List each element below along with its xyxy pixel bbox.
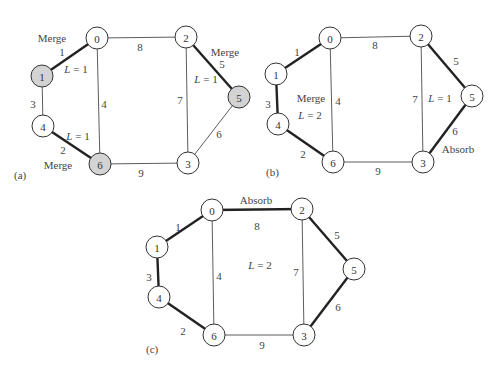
- panel-a: 1234567890123456MergeMergeMergeL = 1L = …: [14, 26, 250, 182]
- node-label: 2: [418, 31, 424, 43]
- edge-weight-label: 6: [335, 301, 341, 313]
- edge-0-2: [330, 36, 421, 38]
- level-label: L = 2: [297, 109, 321, 121]
- node-label: 6: [330, 157, 336, 169]
- node-label: 5: [351, 264, 357, 276]
- edge-weight-label: 4: [335, 95, 341, 107]
- edge-weight-label: 6: [216, 128, 222, 140]
- node-3: 3: [177, 152, 199, 174]
- operation-annotation-merge: Merge: [38, 32, 67, 44]
- edge-2-3: [302, 209, 304, 335]
- node-0: 0: [319, 27, 341, 49]
- node-2: 2: [410, 25, 432, 47]
- node-4: 4: [148, 286, 170, 308]
- level-label: L = 1: [427, 92, 451, 104]
- operation-annotation-absorb: Absorb: [240, 194, 273, 206]
- node-label: 3: [185, 158, 191, 170]
- node-6: 6: [203, 324, 225, 346]
- edge-6-3: [100, 163, 188, 164]
- edge-weight-label: 1: [294, 46, 300, 58]
- edge-weight-label: 4: [101, 98, 107, 110]
- edge-2-5-merged: [302, 209, 354, 269]
- edge-weight-label: 2: [180, 325, 186, 337]
- edge-weight-label: 1: [175, 221, 181, 233]
- edge-weight-label: 9: [375, 165, 381, 177]
- edge-weight-label: 8: [372, 39, 378, 51]
- edge-weight-label: 5: [453, 55, 459, 67]
- node-label: 0: [94, 33, 100, 45]
- edge-weight-label: 7: [177, 94, 183, 106]
- node-1: 1: [31, 65, 53, 87]
- node-label: 1: [39, 71, 45, 83]
- node-2: 2: [291, 198, 313, 220]
- node-5: 5: [461, 85, 483, 107]
- edge-weight-label: 8: [254, 220, 260, 232]
- edge-weight-label: 5: [334, 229, 340, 241]
- node-label: 3: [301, 330, 307, 342]
- edge-2-3: [186, 37, 188, 163]
- level-label: L = 2: [247, 259, 271, 271]
- edge-5-3-merged: [304, 269, 354, 335]
- edge-weight-label: 6: [452, 125, 458, 137]
- edge-weight-label: 3: [146, 271, 152, 283]
- node-label: 1: [273, 69, 279, 81]
- edge-0-2: [97, 37, 186, 38]
- node-label: 1: [154, 242, 160, 254]
- edge-weight-label: 2: [60, 144, 66, 156]
- node-label: 6: [211, 330, 217, 342]
- operation-annotation-merge: Merge: [211, 46, 240, 58]
- node-label: 0: [209, 205, 215, 217]
- node-3: 3: [293, 324, 315, 346]
- edge-5-3: [188, 97, 239, 163]
- edge-2-5-merged: [421, 36, 472, 96]
- node-label: 3: [420, 157, 426, 169]
- edge-weight-label: 7: [412, 93, 418, 105]
- edge-weight-label: 3: [265, 98, 271, 110]
- edge-weight-label: 8: [137, 41, 143, 53]
- node-label: 5: [469, 91, 475, 103]
- panel-label: (a): [14, 169, 27, 182]
- edge-2-3: [421, 36, 423, 162]
- node-label: 4: [275, 119, 281, 131]
- edge-weight-label: 2: [300, 148, 306, 160]
- node-label: 6: [97, 159, 103, 171]
- edge-weight-label: 3: [30, 98, 36, 110]
- operation-annotation-merge: Merge: [44, 159, 73, 171]
- level-label: L = 1: [65, 130, 89, 142]
- node-label: 2: [299, 204, 305, 216]
- node-0: 0: [86, 27, 108, 49]
- level-label: L = 1: [193, 73, 217, 85]
- panel-label: (c): [146, 343, 159, 356]
- node-label: 5: [236, 92, 242, 104]
- node-0: 0: [201, 199, 223, 221]
- edge-weight-label: 4: [216, 270, 222, 282]
- node-label: 4: [156, 292, 162, 304]
- node-label: 4: [40, 121, 46, 133]
- node-2: 2: [175, 26, 197, 48]
- node-6: 6: [322, 151, 344, 173]
- edge-0-6: [212, 210, 214, 335]
- panel-b: 1234567890123456MergeAbsorbL = 2L = 1(b): [265, 25, 483, 179]
- level-label: L = 1: [63, 63, 87, 75]
- operation-annotation-merge: Merge: [297, 92, 326, 104]
- edge-weight-label: 5: [219, 58, 225, 70]
- node-5: 5: [343, 258, 365, 280]
- edge-weight-label: 7: [293, 266, 299, 278]
- node-1: 1: [265, 63, 287, 85]
- node-4: 4: [267, 113, 289, 135]
- node-label: 0: [327, 33, 333, 45]
- node-5: 5: [228, 86, 250, 108]
- panel-label: (b): [266, 166, 279, 179]
- edge-weight-label: 9: [259, 339, 265, 351]
- operation-annotation-absorb: Absorb: [442, 143, 475, 155]
- node-6: 6: [89, 153, 111, 175]
- node-3: 3: [412, 151, 434, 173]
- edge-0-6: [97, 38, 100, 164]
- node-4: 4: [32, 115, 54, 137]
- edge-weight-label: 9: [138, 167, 144, 179]
- graph-merge-absorb-diagram: 1234567890123456MergeMergeMergeL = 1L = …: [0, 0, 500, 370]
- panel-c: 1234567890123456AbsorbL = 2(c): [146, 194, 365, 356]
- edge-0-2-merged: [212, 209, 302, 210]
- edge-0-6: [330, 38, 333, 162]
- edge-weight-label: 1: [59, 46, 65, 58]
